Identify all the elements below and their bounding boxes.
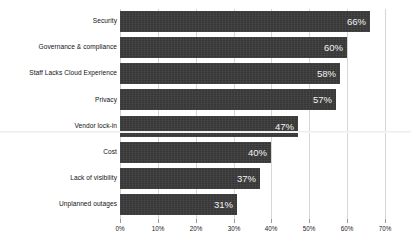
xtick-40 [271,219,272,223]
category-label-security: Security [0,17,117,25]
xtick-20 [196,219,197,223]
xtick-label-20: 20% [176,225,216,233]
bar-value: 60% [324,43,343,53]
bar-value: 40% [248,148,267,158]
xtick-60 [347,219,348,223]
bar-lack-of-visibility: 37% [120,168,260,189]
bar-value: 57% [313,95,332,105]
xtick-label-60: 60% [327,225,367,233]
bar-cost: 40% [120,142,271,163]
xtick-label-30: 30% [214,225,254,233]
xtick-30 [234,219,235,223]
category-label-cost: Cost [0,148,117,156]
bar-privacy: 57% [120,89,336,110]
xtick-10 [158,219,159,223]
bar-value: 58% [317,69,336,79]
xtick-label-10: 10% [138,225,178,233]
bar-value: 31% [214,200,233,210]
bar-value: 66% [347,17,366,27]
image-scan-artifact [0,132,411,133]
xtick-label-50: 50% [289,225,329,233]
xtick-70 [385,219,386,223]
bar-security: 66% [120,11,370,32]
gridline-60 [347,9,348,219]
bar-value: 37% [237,174,256,184]
xtick-50 [309,219,310,223]
bar-governance-compliance: 60% [120,37,347,58]
xtick-label-0: 0% [100,225,140,233]
category-label-vendor-lock-in: Vendor lock-in [0,122,117,130]
category-label-lack-of-visibility: Lack of visibility [0,174,117,182]
category-label-staff-lacks-cloud-experience: Staff Lacks Cloud Experience [0,69,117,77]
horizontal-bar-chart: 66% 60% 58% 57% 47% 40% 37% 31% Security… [0,0,411,249]
category-label-privacy: Privacy [0,96,117,104]
category-label-unplanned-outages: Unplanned outages [0,200,117,208]
bar-value: 47% [275,122,294,132]
xtick-label-40: 40% [251,225,291,233]
xtick-0 [120,219,121,223]
bar-staff-lacks-cloud-experience: 58% [120,63,340,84]
bar-vendor-lock-in: 47% [120,116,298,137]
gridline-70 [385,9,386,219]
xtick-label-70: 70% [365,225,405,233]
category-label-governance-compliance: Governance & compliance [0,43,117,51]
bar-unplanned-outages: 31% [120,194,237,215]
